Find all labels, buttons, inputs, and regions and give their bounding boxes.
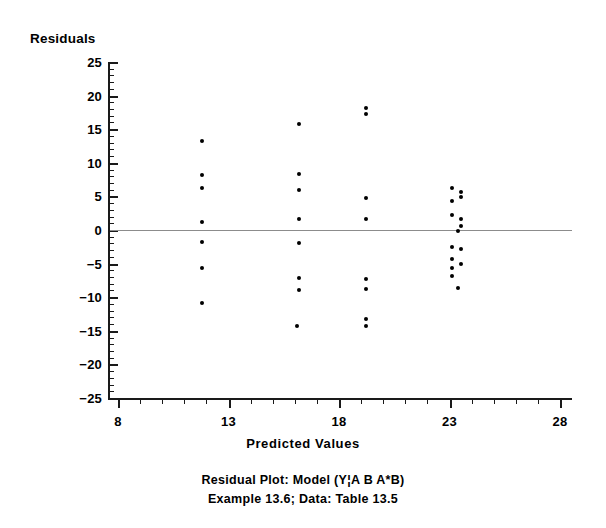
scatter-point bbox=[450, 199, 454, 203]
scatter-point bbox=[200, 266, 204, 270]
scatter-point bbox=[297, 122, 301, 126]
scatter-point bbox=[200, 139, 204, 143]
y-axis-title: Residuals bbox=[30, 31, 96, 46]
y-axis-minor-tick bbox=[110, 190, 114, 191]
scatter-point bbox=[297, 276, 301, 280]
scatter-point bbox=[450, 245, 454, 249]
scatter-point bbox=[450, 186, 454, 190]
x-axis-minor-tick bbox=[251, 400, 252, 404]
y-axis-minor-tick bbox=[110, 176, 114, 177]
y-axis-minor-tick bbox=[110, 122, 114, 123]
x-axis-minor-tick bbox=[427, 400, 428, 404]
y-axis-minor-tick bbox=[110, 170, 114, 171]
x-axis-major-tick bbox=[560, 400, 562, 408]
y-axis-minor-tick bbox=[110, 223, 114, 224]
scatter-point bbox=[297, 288, 301, 292]
y-axis-minor-tick bbox=[110, 284, 114, 285]
y-axis-minor-tick bbox=[110, 136, 114, 137]
y-axis-minor-tick bbox=[110, 82, 114, 83]
scatter-point bbox=[297, 188, 301, 192]
y-axis-minor-tick bbox=[110, 89, 114, 90]
x-axis-minor-tick bbox=[405, 400, 406, 404]
y-axis-minor-tick bbox=[110, 391, 114, 392]
scatter-point bbox=[364, 317, 368, 321]
y-axis-minor-tick bbox=[110, 156, 114, 157]
y-axis-minor-tick bbox=[110, 371, 114, 372]
x-axis-major-tick bbox=[450, 400, 452, 408]
scatter-point bbox=[297, 241, 301, 245]
y-axis-major-tick bbox=[110, 129, 118, 131]
scatter-point bbox=[459, 262, 463, 266]
y-axis-tick-label: 15 bbox=[56, 122, 102, 137]
y-axis-minor-tick bbox=[110, 338, 114, 339]
x-axis-minor-tick bbox=[273, 400, 274, 404]
scatter-point bbox=[364, 287, 368, 291]
x-axis-minor-tick bbox=[140, 400, 141, 404]
figure-caption-line-1: Residual Plot: Model (Y¦A B A*B) bbox=[0, 473, 606, 487]
x-axis-major-tick bbox=[118, 400, 120, 408]
scatter-point bbox=[200, 186, 204, 190]
x-axis-major-tick bbox=[229, 400, 231, 408]
scatter-point bbox=[456, 286, 460, 290]
x-axis-minor-tick bbox=[494, 400, 495, 404]
scatter-point bbox=[450, 257, 454, 261]
y-axis-major-tick bbox=[110, 264, 118, 266]
y-axis-minor-tick bbox=[110, 143, 114, 144]
scatter-point bbox=[297, 217, 301, 221]
y-axis-minor-tick bbox=[110, 270, 114, 271]
y-axis-minor-tick bbox=[110, 217, 114, 218]
y-axis-line bbox=[108, 62, 110, 400]
y-axis-tick-label: 25 bbox=[56, 55, 102, 70]
x-axis-minor-tick bbox=[516, 400, 517, 404]
x-axis-minor-tick bbox=[538, 400, 539, 404]
figure-caption-line-2: Example 13.6; Data: Table 13.5 bbox=[0, 492, 606, 506]
y-axis-minor-tick bbox=[110, 257, 114, 258]
y-axis-minor-tick bbox=[110, 75, 114, 76]
scatter-point bbox=[450, 274, 454, 278]
x-axis-minor-tick bbox=[162, 400, 163, 404]
y-axis-minor-tick bbox=[110, 344, 114, 345]
y-axis-tick-label: −5 bbox=[56, 256, 102, 271]
x-axis-title: Predicted Values bbox=[0, 436, 606, 451]
y-axis-tick-label: 10 bbox=[56, 155, 102, 170]
residual-plot-figure: Residuals 2520151050−5−10−15−20−25 81318… bbox=[0, 0, 606, 528]
scatter-point bbox=[459, 195, 463, 199]
x-axis-minor-tick bbox=[472, 400, 473, 404]
x-axis-tick-label: 23 bbox=[430, 414, 470, 429]
y-axis-major-tick bbox=[110, 364, 118, 366]
y-axis-major-tick bbox=[110, 297, 118, 299]
x-axis-tick-label: 8 bbox=[98, 414, 138, 429]
scatter-point bbox=[459, 247, 463, 251]
y-axis-tick-label: 20 bbox=[56, 88, 102, 103]
scatter-point bbox=[459, 224, 463, 228]
scatter-point bbox=[450, 213, 454, 217]
y-axis-tick-label: −10 bbox=[56, 290, 102, 305]
y-axis-minor-tick bbox=[110, 116, 114, 117]
x-axis-tick-label: 13 bbox=[209, 414, 249, 429]
y-axis-major-tick bbox=[110, 62, 118, 64]
scatter-point bbox=[456, 229, 460, 233]
y-axis-minor-tick bbox=[110, 109, 114, 110]
scatter-point bbox=[450, 266, 454, 270]
y-axis-minor-tick bbox=[110, 183, 114, 184]
scatter-point bbox=[295, 324, 299, 328]
zero-reference-line bbox=[110, 230, 572, 231]
y-axis-minor-tick bbox=[110, 358, 114, 359]
x-axis-major-tick bbox=[339, 400, 341, 408]
y-axis-minor-tick bbox=[110, 210, 114, 211]
x-axis-minor-tick bbox=[295, 400, 296, 404]
scatter-point bbox=[200, 301, 204, 305]
scatter-point bbox=[459, 190, 463, 194]
x-axis-minor-tick bbox=[383, 400, 384, 404]
y-axis-minor-tick bbox=[110, 277, 114, 278]
y-axis-minor-tick bbox=[110, 317, 114, 318]
y-axis-minor-tick bbox=[110, 149, 114, 150]
scatter-point bbox=[364, 112, 368, 116]
y-axis-tick-label: 0 bbox=[56, 223, 102, 238]
scatter-point bbox=[459, 217, 463, 221]
y-axis-minor-tick bbox=[110, 290, 114, 291]
y-axis-minor-tick bbox=[110, 304, 114, 305]
y-axis-minor-tick bbox=[110, 378, 114, 379]
y-axis-minor-tick bbox=[110, 385, 114, 386]
x-axis-tick-label: 28 bbox=[540, 414, 580, 429]
